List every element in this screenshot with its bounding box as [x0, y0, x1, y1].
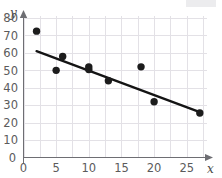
- y-tick-label: 0: [9, 151, 16, 165]
- trend-line: [37, 51, 200, 112]
- data-point: [59, 53, 66, 60]
- y-tick-label: 30: [3, 98, 18, 112]
- y-tick-label: 70: [3, 29, 18, 43]
- x-axis-label: x: [207, 162, 214, 176]
- y-tick-label: 10: [3, 133, 18, 147]
- y-axis-label: y: [9, 6, 17, 20]
- x-axis-arrowhead: [205, 154, 213, 161]
- y-axis-tick-labels: 01020304050607080: [3, 11, 18, 164]
- y-axis-arrowhead: [20, 10, 27, 18]
- y-tick-label: 50: [3, 64, 18, 78]
- chart-canvas: 01020304050607080 0510152025 y x: [0, 0, 222, 178]
- x-tick-label: 10: [81, 161, 96, 175]
- x-tick-label: 20: [147, 161, 162, 175]
- data-point: [137, 63, 144, 70]
- x-tick-label: 25: [179, 161, 194, 175]
- line-of-best-fit: [37, 51, 200, 112]
- vertical-gridlines: [25, 16, 204, 158]
- data-point: [33, 27, 40, 34]
- data-point: [52, 67, 59, 74]
- y-tick-label: 40: [3, 81, 18, 95]
- y-tick-label: 60: [3, 46, 18, 60]
- data-point: [196, 109, 203, 116]
- x-axis-tick-labels: 0510152025: [20, 161, 194, 175]
- data-point: [105, 77, 112, 84]
- x-tick-label: 5: [52, 161, 59, 175]
- scatter-plot-figure: 01020304050607080 0510152025 y x: [0, 0, 222, 178]
- data-point: [150, 98, 157, 105]
- x-tick-label: 15: [114, 161, 129, 175]
- data-point: [85, 66, 92, 73]
- scan-artifact: [186, 0, 216, 7]
- y-tick-label: 20: [3, 116, 18, 130]
- x-tick-label: 0: [20, 161, 27, 175]
